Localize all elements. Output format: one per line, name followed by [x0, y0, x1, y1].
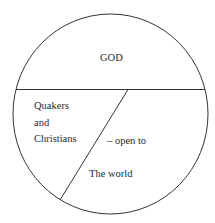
- open-to-label: – open to: [107, 136, 146, 147]
- diagram-canvas: [0, 0, 215, 223]
- quakers-label: Quakers: [34, 101, 69, 112]
- and-label: and: [34, 118, 49, 129]
- outer-circle: [13, 14, 208, 214]
- the-world-label: The world: [89, 169, 132, 180]
- god-label: GOD: [100, 53, 123, 64]
- christians-label: Christians: [34, 134, 77, 145]
